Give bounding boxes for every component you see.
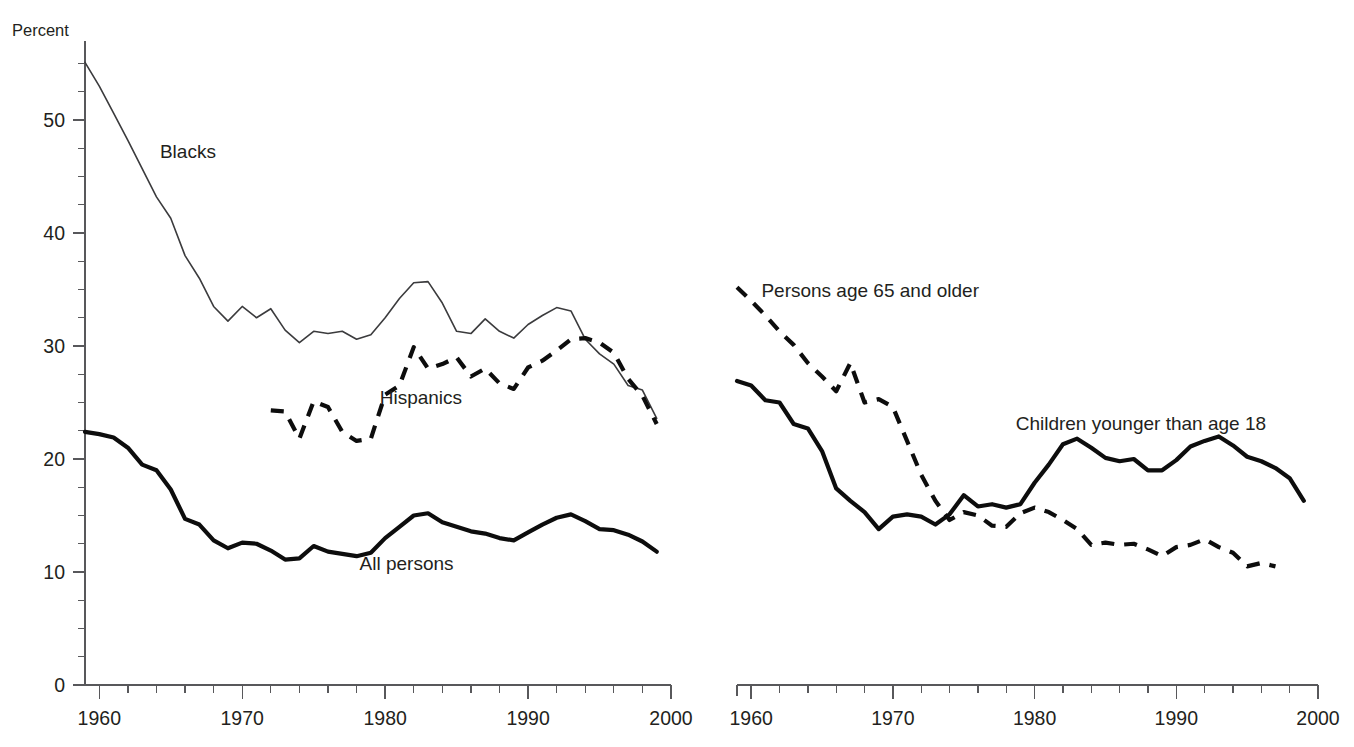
x-tick-label: 1980 [363, 707, 407, 729]
right-x-ticks [751, 685, 1318, 699]
chart-svg: Percent 01020304050 19601970198019902000… [0, 0, 1354, 747]
x-tick-label: 1980 [1013, 707, 1057, 729]
y-tick-label: 30 [43, 335, 65, 357]
left-series-lines [85, 62, 657, 559]
y-tick-label: 10 [43, 561, 65, 583]
series-label-blacks: Blacks [160, 141, 216, 162]
x-tick-label: 1990 [1155, 707, 1199, 729]
left-x-tick-labels: 19601970198019902000 [78, 707, 693, 729]
x-tick-label: 1960 [729, 707, 773, 729]
series-label-persons-age-65-and-older: Persons age 65 and older [761, 280, 979, 301]
right-panel: 19601970198019902000 Persons age 65 and … [729, 280, 1339, 729]
series-label-children-younger-than-age-18: Children younger than age 18 [1016, 413, 1266, 434]
series-label-hispanics: Hispanics [380, 387, 462, 408]
right-axes [737, 685, 1318, 696]
x-tick-label: 1970 [871, 707, 915, 729]
right-x-tick-labels: 19601970198019902000 [729, 707, 1339, 729]
x-tick-label: 1970 [221, 707, 265, 729]
y-axis-title: Percent [12, 21, 69, 39]
left-axes [85, 41, 671, 685]
poverty-rate-figure: Percent 01020304050 19601970198019902000… [0, 0, 1354, 747]
x-tick-label: 1960 [78, 707, 122, 729]
x-tick-label: 1990 [506, 707, 550, 729]
series-label-all-persons: All persons [360, 553, 454, 574]
left-series-annotations: BlacksHispanicsAll persons [160, 141, 462, 573]
y-tick-label: 50 [43, 109, 65, 131]
series-line-all-persons [85, 432, 657, 560]
right-series-annotations: Persons age 65 and olderChildren younger… [761, 280, 1266, 433]
left-y-tick-labels: 01020304050 [43, 109, 65, 696]
series-line-blacks [85, 62, 657, 418]
series-line-children-younger-than-age-18 [737, 381, 1304, 529]
left-y-ticks [73, 64, 85, 686]
x-tick-label: 2000 [649, 707, 693, 729]
left-x-ticks [99, 685, 671, 699]
left-panel: 01020304050 19601970198019902000 BlacksH… [43, 41, 693, 729]
y-tick-label: 0 [54, 674, 65, 696]
x-tick-label: 2000 [1296, 707, 1340, 729]
y-tick-label: 40 [43, 222, 65, 244]
y-tick-label: 20 [43, 448, 65, 470]
